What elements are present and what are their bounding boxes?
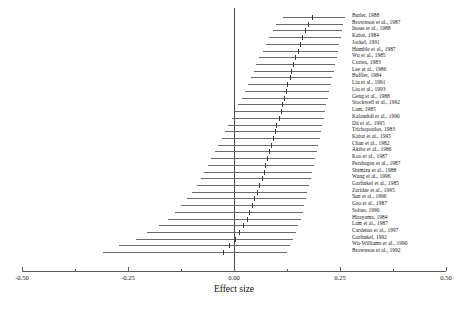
confidence-interval-bar [276,24,343,25]
effect-point-marker [290,75,291,80]
x-axis-tick-label: 0.50 [440,274,452,281]
x-axis-tick [128,267,129,271]
effect-point-marker [312,15,313,20]
effect-point-marker [271,143,272,148]
effect-point-marker [293,62,294,67]
confidence-interval-bar [147,232,296,233]
x-axis-line [22,271,446,272]
confidence-interval-bar [256,64,334,65]
effect-point-marker [252,203,253,208]
effect-point-marker [287,82,288,87]
confidence-interval-bar [228,125,322,126]
confidence-interval-bar [263,51,338,52]
confidence-interval-bar [222,138,320,139]
x-axis-tick [446,267,447,271]
effect-point-marker [282,102,283,107]
effect-point-marker [295,55,296,60]
effect-point-marker [257,190,258,195]
effect-point-marker [302,35,303,40]
effect-point-marker [235,237,236,242]
effect-point-marker [281,109,282,114]
plot-area: Butler, 1988Brownson et al., 1987Inoue e… [0,0,469,310]
confidence-interval-bar [266,44,339,45]
x-axis-tick-label: 0.00 [228,274,240,281]
effect-point-marker [267,156,268,161]
effect-point-marker [305,28,306,33]
confidence-interval-bar [269,37,341,38]
x-axis-tick [340,267,341,271]
confidence-interval-bar [204,172,312,173]
effect-point-marker [243,223,244,228]
effect-point-marker [247,217,248,222]
effect-point-marker [291,69,292,74]
x-axis-tick-label: -0.50 [15,274,29,281]
effect-point-marker [229,243,230,248]
confidence-interval-bar [259,57,336,58]
effect-point-marker [223,250,224,255]
confidence-interval-bar [136,239,294,240]
confidence-interval-bar [248,84,331,85]
confidence-interval-bar [211,158,315,159]
confidence-interval-bar [159,225,299,226]
x-axis-tick-label: 0.25 [334,274,346,281]
effect-point-marker [286,89,287,94]
effect-point-marker [275,129,276,134]
confidence-interval-bar [225,131,321,132]
study-label: Brownson et al., 1992 [352,247,401,254]
effect-point-marker [300,42,301,47]
confidence-interval-bar [119,245,290,246]
x-axis-tick [234,267,235,271]
confidence-interval-bar [201,178,311,179]
confidence-interval-bar [175,212,303,213]
effect-point-marker [262,176,263,181]
effect-point-marker [284,96,285,101]
effect-point-marker [265,163,266,168]
confidence-interval-bar [103,252,287,253]
effect-point-marker [273,136,274,141]
x-axis-minor-tick [181,269,182,271]
confidence-interval-bar [251,77,332,78]
effect-point-marker [308,22,309,27]
confidence-interval-bar [283,17,345,18]
x-axis-tick-label: -0.25 [121,274,135,281]
effect-point-marker [259,183,260,188]
confidence-interval-bar [187,198,307,199]
confidence-interval-bar [215,151,317,152]
confidence-interval-bar [197,185,309,186]
confidence-interval-bar [181,205,305,206]
effect-point-marker [279,116,280,121]
effect-point-marker [269,149,270,154]
effect-point-marker [276,123,277,128]
effect-point-marker [264,170,265,175]
confidence-interval-bar [208,165,314,166]
forest-plot: Butler, 1988Brownson et al., 1987Inoue e… [0,0,469,310]
effect-point-marker [249,210,250,215]
x-axis-minor-tick [287,269,288,271]
x-axis-minor-tick [75,269,76,271]
confidence-interval-bar [192,192,307,193]
effect-point-marker [298,49,299,54]
x-axis-tick [22,267,23,271]
confidence-interval-bar [218,145,318,146]
confidence-interval-bar [245,91,330,92]
confidence-interval-bar [254,71,334,72]
confidence-interval-bar [168,219,301,220]
confidence-interval-bar [273,30,342,31]
x-axis-title: Effect size [214,284,254,294]
effect-point-marker [239,230,240,235]
effect-point-marker [254,196,255,201]
study-row: Brownson et al., 1992 [0,249,469,256]
x-axis-minor-tick [393,269,394,271]
